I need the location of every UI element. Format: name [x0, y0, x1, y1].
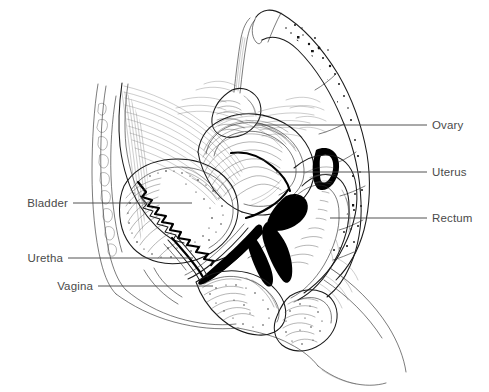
label-uretha: Uretha — [28, 252, 64, 264]
anatomy-illustration: Ovary Uterus Rectum Bladder Uretha Vagin… — [0, 0, 489, 392]
figure-background — [0, 0, 489, 392]
label-rectum: Rectum — [432, 212, 473, 224]
label-ovary: Ovary — [432, 119, 464, 131]
label-uterus: Uterus — [432, 166, 467, 178]
label-vagina: Vagina — [57, 280, 93, 292]
anatomy-figure: Ovary Uterus Rectum Bladder Uretha Vagin… — [0, 0, 489, 392]
label-bladder: Bladder — [27, 197, 68, 209]
